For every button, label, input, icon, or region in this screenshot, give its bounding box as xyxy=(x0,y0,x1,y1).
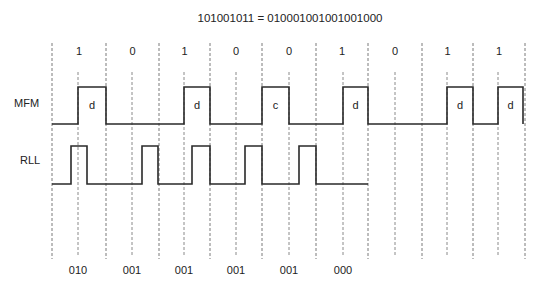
mfm-pulse-label: d xyxy=(89,99,95,111)
rll-group-label: 001 xyxy=(227,264,245,276)
rll-waveform xyxy=(52,146,368,184)
rll-group-label: 001 xyxy=(175,264,193,276)
data-bit-labels: 101001011 xyxy=(76,45,502,57)
rll-group-label: 000 xyxy=(334,264,352,276)
data-bit-label: 1 xyxy=(339,45,345,57)
rll-group-label: 001 xyxy=(280,264,298,276)
mfm-pulse-label: d xyxy=(507,99,513,111)
bit-boundary-lines xyxy=(52,43,525,259)
mfm-pulse-label: d xyxy=(194,99,200,111)
bit-midpoint-lines xyxy=(78,72,498,257)
data-bit-label: 0 xyxy=(392,45,398,57)
mfm-pulse-label: c xyxy=(273,99,279,111)
data-bit-label: 1 xyxy=(444,45,450,57)
mfm-pulse-labels: ddcddd xyxy=(89,99,514,111)
data-bit-label: 0 xyxy=(286,45,292,57)
mfm-rll-encoding-diagram: 101001011 = 010001001001001000 101001011… xyxy=(0,0,539,289)
rll-group-label: 010 xyxy=(69,264,87,276)
mfm-pulse-label: d xyxy=(457,99,463,111)
data-bit-label: 1 xyxy=(496,45,502,57)
mfm-pulse-label: d xyxy=(352,99,358,111)
data-bit-label: 0 xyxy=(233,45,239,57)
mfm-waveform xyxy=(52,87,523,124)
diagram-title: 101001011 = 010001001001001000 xyxy=(198,12,383,24)
rll-group-label: 001 xyxy=(123,264,141,276)
rll-group-labels: 010001001001001000 xyxy=(69,264,352,276)
data-bit-label: 1 xyxy=(181,45,187,57)
data-bit-label: 1 xyxy=(76,45,82,57)
mfm-row-label: MFM xyxy=(14,97,39,109)
rll-row-label: RLL xyxy=(20,154,40,166)
data-bit-label: 0 xyxy=(129,45,135,57)
